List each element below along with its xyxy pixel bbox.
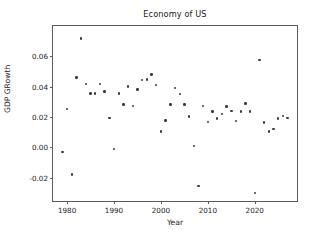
- data-point: [179, 93, 181, 95]
- data-point: [174, 87, 176, 89]
- x-tick-label: 2020: [246, 206, 264, 215]
- x-tick-mark: [161, 201, 162, 204]
- data-point: [183, 103, 185, 105]
- x-tick-label: 2010: [199, 206, 217, 215]
- data-points-layer: [53, 26, 297, 201]
- data-point: [235, 120, 237, 122]
- data-point: [80, 37, 82, 39]
- plot-area: 0.060.040.020.00-0.02 198019902000201020…: [52, 25, 298, 202]
- data-point: [263, 121, 265, 123]
- data-point: [169, 103, 171, 105]
- x-tick-mark: [114, 201, 115, 204]
- data-point: [286, 117, 288, 119]
- chart-title: Economy of US: [52, 9, 298, 19]
- data-point: [268, 130, 270, 132]
- data-point: [277, 117, 279, 119]
- x-tick-mark: [67, 201, 68, 204]
- data-point: [193, 145, 195, 147]
- data-point: [160, 130, 162, 132]
- x-tick-label: 2000: [152, 206, 170, 215]
- data-point: [113, 148, 115, 150]
- data-point: [85, 83, 87, 85]
- data-point: [122, 103, 124, 105]
- data-point: [155, 84, 157, 86]
- x-tick-label: 1980: [58, 206, 76, 215]
- data-point: [71, 173, 73, 175]
- data-point: [118, 92, 120, 94]
- data-point: [141, 79, 143, 81]
- data-point: [197, 185, 199, 187]
- data-point: [207, 121, 209, 123]
- data-point: [146, 78, 148, 80]
- data-point: [244, 102, 246, 104]
- data-point: [132, 105, 134, 107]
- y-tick-label: 0.02: [32, 112, 48, 121]
- y-tick-label: 0.00: [32, 143, 48, 152]
- data-point: [188, 115, 190, 117]
- y-axis-label: GDP GRowth: [3, 65, 12, 113]
- x-axis-label: Year: [52, 218, 298, 227]
- x-tick-label: 1990: [105, 206, 123, 215]
- data-point: [211, 110, 213, 112]
- scatter-plot-figure: Economy of US GDP GRowth 0.060.040.020.0…: [0, 0, 315, 233]
- data-point: [89, 92, 91, 94]
- data-point: [216, 117, 218, 119]
- data-point: [94, 92, 96, 94]
- x-tick-mark: [208, 201, 209, 204]
- data-point: [136, 88, 138, 90]
- data-point: [108, 117, 110, 119]
- x-tick-mark: [255, 201, 256, 204]
- data-point: [127, 85, 129, 87]
- data-point: [103, 90, 105, 92]
- y-tick-label: -0.02: [29, 173, 48, 182]
- y-tick-label: 0.04: [32, 82, 48, 91]
- data-point: [258, 59, 260, 61]
- data-point: [282, 115, 284, 117]
- data-point: [221, 113, 223, 115]
- data-point: [61, 151, 63, 153]
- data-point: [99, 83, 101, 85]
- y-tick-label: 0.06: [32, 52, 48, 61]
- data-point: [66, 108, 68, 110]
- data-point: [75, 76, 77, 78]
- data-point: [164, 119, 166, 121]
- data-point: [150, 73, 152, 75]
- data-point: [249, 110, 251, 112]
- data-point: [230, 110, 232, 112]
- data-point: [240, 110, 242, 112]
- data-point: [225, 105, 227, 107]
- data-point: [272, 128, 274, 130]
- data-point: [202, 105, 204, 107]
- data-point: [254, 192, 256, 194]
